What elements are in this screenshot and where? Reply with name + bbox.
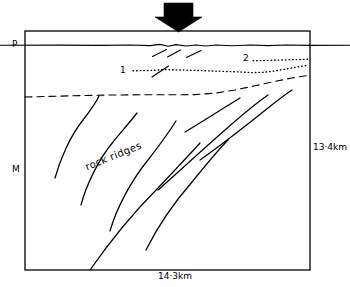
dashed-horizon-line xyxy=(25,75,308,97)
cross-section-figure: P M 1 2 13·4km 14·3km rock ridges xyxy=(0,0,350,287)
shear-strokes xyxy=(152,50,201,78)
dotted-line-2 xyxy=(253,59,308,61)
rock-ridge-curves xyxy=(55,90,292,270)
depth-label: 13·4km xyxy=(313,143,347,152)
dotted-line-2-label: 2 xyxy=(243,54,249,63)
p-horizon-line xyxy=(0,44,350,46)
m-horizon-label: M xyxy=(12,165,20,174)
cross-section-drawing xyxy=(0,0,350,287)
p-horizon-label: P xyxy=(12,40,17,49)
dotted-line-1-label: 1 xyxy=(120,66,126,75)
down-arrow-icon xyxy=(155,3,202,32)
width-label: 14·3km xyxy=(0,272,350,281)
